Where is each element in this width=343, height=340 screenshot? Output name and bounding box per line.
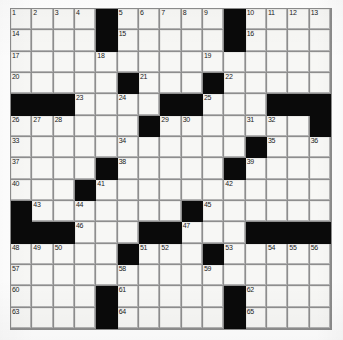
letter-cell[interactable] [288,286,309,307]
letter-cell[interactable] [267,265,288,286]
letter-cell[interactable] [224,137,245,158]
letter-cell[interactable] [203,222,224,243]
letter-cell[interactable]: 30 [182,116,203,137]
letter-cell[interactable]: 35 [267,137,288,158]
letter-cell[interactable]: 19 [203,52,224,73]
letter-cell[interactable] [224,116,245,137]
letter-cell[interactable]: 61 [118,286,139,307]
letter-cell[interactable] [96,137,117,158]
letter-cell[interactable] [224,94,245,115]
letter-cell[interactable] [203,116,224,137]
letter-cell[interactable] [32,286,53,307]
letter-cell[interactable] [203,137,224,158]
letter-cell[interactable]: 22 [224,73,245,94]
letter-cell[interactable] [32,30,53,51]
letter-cell[interactable]: 6 [139,9,160,30]
letter-cell[interactable] [54,201,75,222]
letter-cell[interactable]: 3 [54,9,75,30]
letter-cell[interactable]: 46 [75,222,96,243]
letter-cell[interactable] [160,137,181,158]
letter-cell[interactable]: 65 [246,308,267,329]
letter-cell[interactable] [224,265,245,286]
letter-cell[interactable]: 10 [246,9,267,30]
letter-cell[interactable] [182,286,203,307]
letter-cell[interactable]: 48 [11,244,32,265]
letter-cell[interactable] [118,180,139,201]
letter-cell[interactable]: 28 [54,116,75,137]
letter-cell[interactable] [32,308,53,329]
letter-cell[interactable] [203,286,224,307]
letter-cell[interactable] [118,116,139,137]
letter-cell[interactable]: 34 [118,137,139,158]
letter-cell[interactable] [75,265,96,286]
letter-cell[interactable]: 49 [32,244,53,265]
letter-cell[interactable] [160,265,181,286]
letter-cell[interactable] [203,158,224,179]
letter-cell[interactable]: 1 [11,9,32,30]
letter-cell[interactable] [139,158,160,179]
letter-cell[interactable]: 43 [32,201,53,222]
letter-cell[interactable]: 37 [11,158,32,179]
letter-cell[interactable]: 58 [118,265,139,286]
letter-cell[interactable] [267,180,288,201]
letter-cell[interactable]: 51 [139,244,160,265]
letter-cell[interactable]: 53 [224,244,245,265]
letter-cell[interactable] [139,94,160,115]
letter-cell[interactable]: 24 [118,94,139,115]
letter-cell[interactable] [32,52,53,73]
letter-cell[interactable] [118,52,139,73]
letter-cell[interactable] [310,180,331,201]
letter-cell[interactable] [310,308,331,329]
letter-cell[interactable] [75,308,96,329]
letter-cell[interactable] [139,286,160,307]
letter-cell[interactable]: 39 [246,158,267,179]
letter-cell[interactable] [203,30,224,51]
letter-cell[interactable] [118,222,139,243]
letter-cell[interactable]: 4 [75,9,96,30]
letter-cell[interactable] [96,265,117,286]
crossword-grid[interactable]: 1234567891011121314151617181920212223242… [10,8,332,330]
letter-cell[interactable]: 47 [182,222,203,243]
letter-cell[interactable]: 57 [11,265,32,286]
letter-cell[interactable] [139,180,160,201]
letter-cell[interactable]: 26 [11,116,32,137]
letter-cell[interactable] [267,201,288,222]
letter-cell[interactable] [160,286,181,307]
letter-cell[interactable]: 45 [203,201,224,222]
letter-cell[interactable]: 52 [160,244,181,265]
letter-cell[interactable] [160,30,181,51]
letter-cell[interactable] [75,137,96,158]
letter-cell[interactable] [54,158,75,179]
letter-cell[interactable] [246,94,267,115]
letter-cell[interactable] [224,201,245,222]
letter-cell[interactable] [310,158,331,179]
letter-cell[interactable] [288,52,309,73]
letter-cell[interactable] [139,137,160,158]
letter-cell[interactable] [182,180,203,201]
letter-cell[interactable] [182,73,203,94]
letter-cell[interactable] [182,137,203,158]
letter-cell[interactable] [75,30,96,51]
letter-cell[interactable] [310,52,331,73]
letter-cell[interactable] [96,222,117,243]
letter-cell[interactable] [160,158,181,179]
letter-cell[interactable] [288,265,309,286]
letter-cell[interactable] [224,222,245,243]
letter-cell[interactable]: 13 [310,9,331,30]
letter-cell[interactable] [267,30,288,51]
letter-cell[interactable] [32,73,53,94]
letter-cell[interactable] [160,52,181,73]
letter-cell[interactable] [75,116,96,137]
letter-cell[interactable] [96,73,117,94]
letter-cell[interactable] [288,158,309,179]
letter-cell[interactable] [182,265,203,286]
letter-cell[interactable] [224,52,245,73]
letter-cell[interactable] [54,73,75,94]
letter-cell[interactable] [160,308,181,329]
letter-cell[interactable] [32,158,53,179]
letter-cell[interactable] [267,286,288,307]
letter-cell[interactable] [75,244,96,265]
letter-cell[interactable] [310,286,331,307]
letter-cell[interactable] [139,308,160,329]
letter-cell[interactable]: 23 [75,94,96,115]
